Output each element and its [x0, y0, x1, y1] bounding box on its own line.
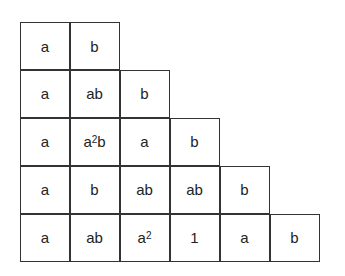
cell-text: b — [290, 229, 298, 246]
cell-text: ab — [136, 181, 153, 198]
table-cell: a2 — [120, 214, 170, 262]
table-cell: a — [120, 118, 170, 166]
table-cell: b — [70, 166, 120, 214]
table-cell: ab — [120, 166, 170, 214]
cell-text: ab — [186, 181, 203, 198]
cell-text: a — [41, 133, 49, 150]
cell-text: a — [41, 229, 49, 246]
table-cell: a — [20, 166, 70, 214]
cell-text: a — [41, 181, 49, 198]
table-cell: b — [220, 166, 270, 214]
table-cell: 1 — [170, 214, 220, 262]
cell-text: b — [190, 133, 198, 150]
cell-exponent: 2 — [92, 134, 98, 145]
cell-base: a — [83, 133, 91, 150]
cell-text: a — [140, 133, 148, 150]
cell-text: a — [41, 38, 49, 55]
table-cell: b — [120, 70, 170, 118]
table-cell: ab — [70, 214, 120, 262]
cell-text: ab — [86, 229, 103, 246]
table-cell: a — [20, 22, 70, 70]
cell-text: b — [90, 38, 98, 55]
cell-suffix: b — [97, 133, 105, 150]
cell-text: b — [140, 85, 148, 102]
table-cell: b — [270, 214, 320, 262]
cell-text: a — [41, 85, 49, 102]
cell-text: 1 — [190, 229, 198, 246]
table-cell: ab — [170, 166, 220, 214]
cell-base: a — [138, 229, 146, 246]
table-cell: b — [70, 22, 120, 70]
table-cell: a2b — [70, 118, 120, 166]
cell-exponent: 2 — [146, 230, 152, 241]
table-cell: ab — [70, 70, 120, 118]
cell-text: b — [90, 181, 98, 198]
table-cell: a — [220, 214, 270, 262]
table-cell: a — [20, 118, 70, 166]
table-cell: a — [20, 214, 70, 262]
cell-text: ab — [86, 85, 103, 102]
table-cell: a — [20, 70, 70, 118]
cell-text: a — [240, 229, 248, 246]
cell-text: b — [240, 181, 248, 198]
table-cell: b — [170, 118, 220, 166]
